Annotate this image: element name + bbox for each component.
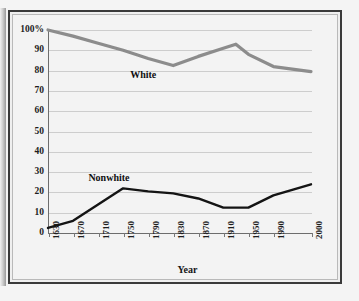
x-tick-mark <box>74 233 75 237</box>
x-tick-label: 1670 <box>77 221 86 239</box>
gridline <box>49 132 312 133</box>
gridline <box>49 192 312 193</box>
x-tick-label: 1710 <box>102 221 111 239</box>
figure-root: 100%9080706050403020100 1630167017101750… <box>0 0 359 301</box>
gridline <box>49 71 312 72</box>
y-tick-label: 10 <box>14 208 44 218</box>
x-axis-title-text: Year <box>178 264 198 275</box>
x-tick-label: 1950 <box>252 221 261 239</box>
y-tick-label: 50 <box>14 127 44 137</box>
x-tick-mark <box>49 233 50 237</box>
gridline <box>49 30 312 31</box>
gridline <box>49 111 312 112</box>
y-tick-label: 100% <box>14 25 44 35</box>
y-tick-label: 40 <box>14 147 44 157</box>
x-tick-mark <box>312 233 313 237</box>
y-tick-label: 60 <box>14 106 44 116</box>
y-tick-label: 30 <box>14 167 44 177</box>
gridline <box>49 50 312 51</box>
x-tick-mark <box>99 233 100 237</box>
x-tick-mark <box>124 233 125 237</box>
gridline <box>49 152 312 153</box>
x-tick-label: 1830 <box>177 221 186 239</box>
gridline <box>49 91 312 92</box>
x-tick-label: 2000 <box>315 221 324 239</box>
series-label-nonwhite: Nonwhite <box>88 172 129 183</box>
x-tick-label: 1790 <box>152 221 161 239</box>
y-tick-label: 20 <box>14 187 44 197</box>
plot-area <box>48 30 312 234</box>
x-axis-title: Year <box>0 264 359 275</box>
y-tick-label: 0 <box>14 228 44 238</box>
y-tick-label: 80 <box>14 66 44 76</box>
x-tick-label: 1990 <box>277 221 286 239</box>
y-tick-label: 90 <box>14 45 44 55</box>
x-tick-label: 1630 <box>52 221 61 239</box>
y-tick-label: 70 <box>14 86 44 96</box>
x-tick-label: 1750 <box>127 221 136 239</box>
x-tick-label: 1870 <box>202 221 211 239</box>
gridline <box>49 213 312 214</box>
x-tick-label: 1910 <box>227 221 236 239</box>
series-label-white: White <box>130 69 156 80</box>
